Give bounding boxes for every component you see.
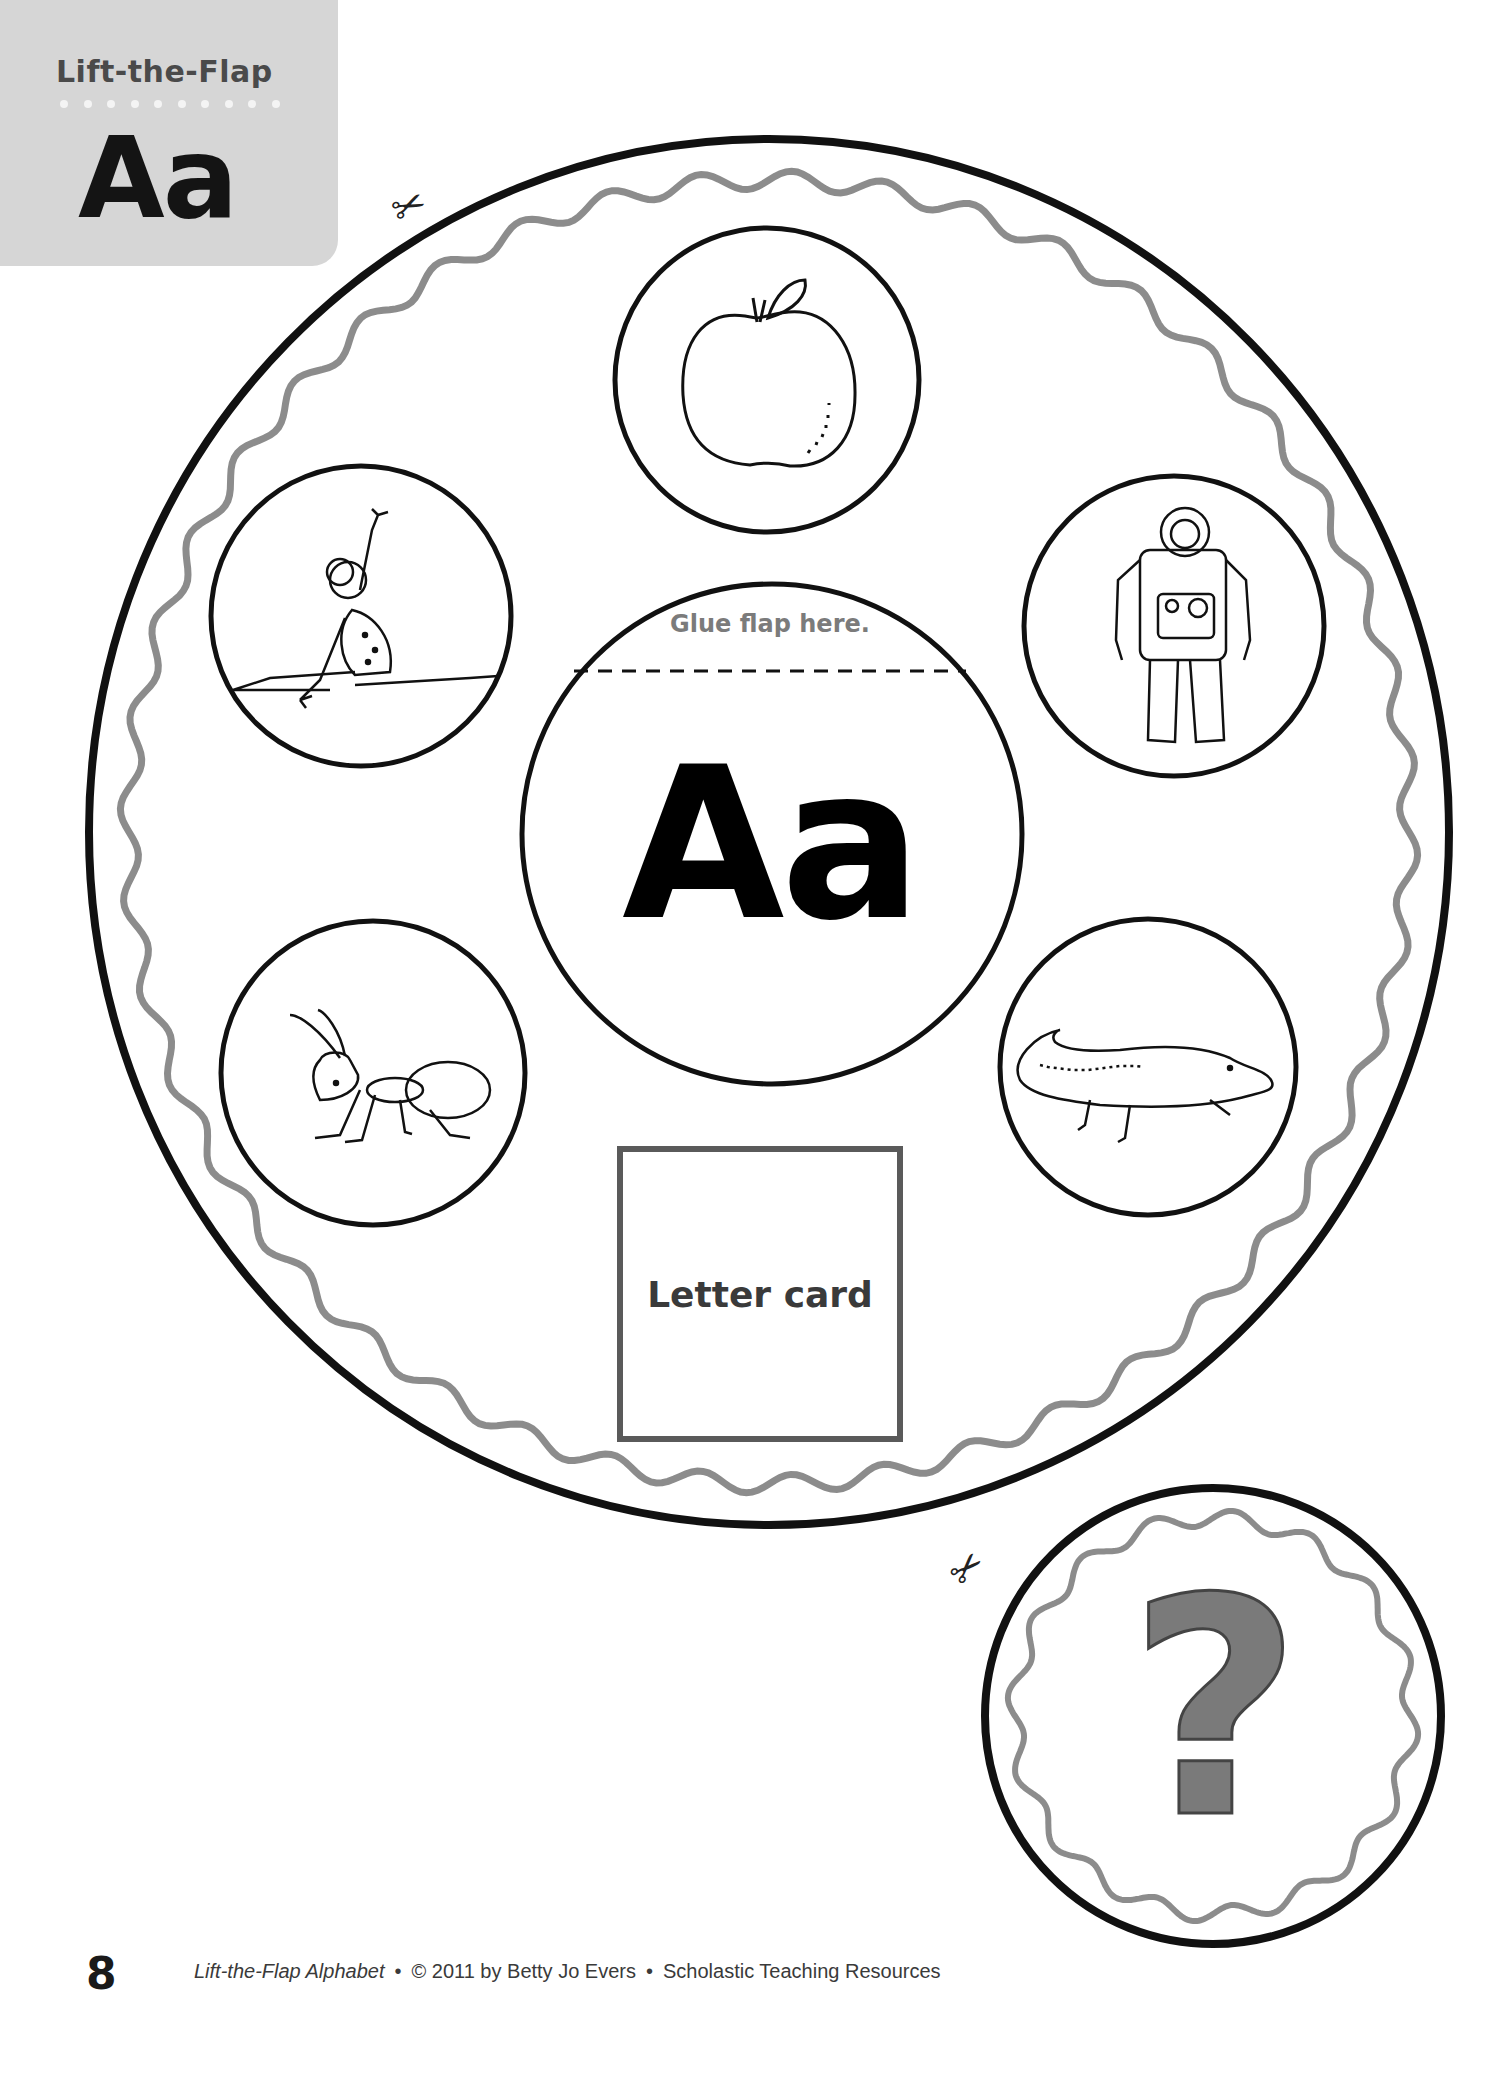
picture-acrobat <box>211 466 511 766</box>
picture-ant <box>221 921 525 1225</box>
glue-instruction: Glue flap here. <box>600 610 940 638</box>
footer-credit: Lift-the-Flap Alphabet•© 2011 by Betty J… <box>194 1960 941 1983</box>
center-letter: Aa <box>560 740 980 950</box>
letter-card-box[interactable]: Letter card <box>617 1146 903 1442</box>
book-title: Lift-the-Flap Alphabet <box>194 1960 384 1982</box>
letter-card-label: Letter card <box>647 1274 873 1315</box>
picture-astronaut <box>1024 476 1324 776</box>
question-mark-icon: ? <box>1110 1560 1320 1860</box>
separator: • <box>394 1960 401 1982</box>
publisher: Scholastic Teaching Resources <box>663 1960 941 1982</box>
copyright: © 2011 by Betty Jo Evers <box>412 1960 636 1982</box>
picture-alligator <box>1000 919 1296 1215</box>
picture-apple <box>615 228 919 532</box>
page-number: 8 <box>86 1948 117 1999</box>
separator: • <box>646 1960 653 1982</box>
